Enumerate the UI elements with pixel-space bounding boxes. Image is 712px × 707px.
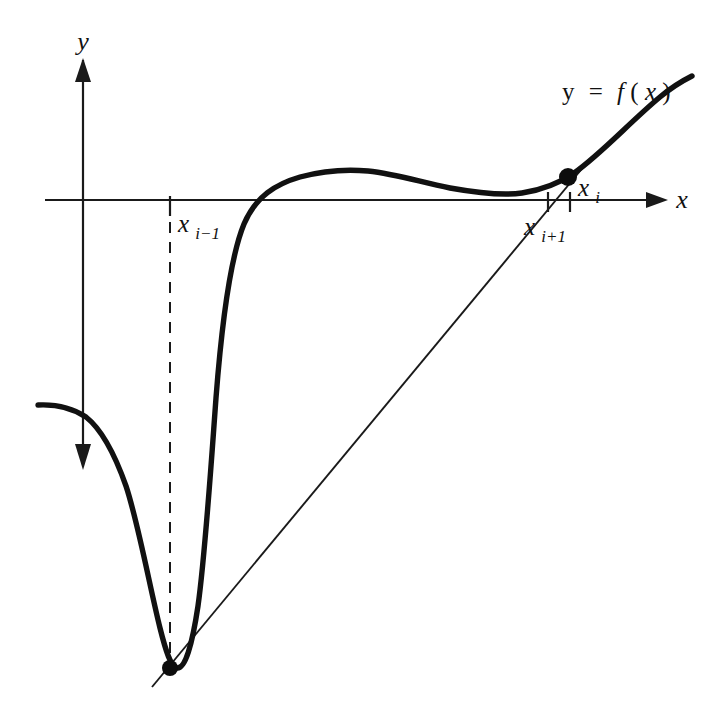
curve-label-equals: = [589, 78, 603, 105]
y-axis-up-arrowhead-icon [75, 58, 91, 82]
x-axis-label: x [675, 185, 688, 214]
label-x-i-minus-1-subscript: i−1 [195, 224, 220, 243]
y-axis-group: y [74, 27, 91, 470]
curve-label-x: x [644, 78, 656, 105]
curve-label-y: y [562, 78, 575, 105]
curve-label-f: f [617, 78, 627, 105]
figure-root: x y y = f ( x ) [0, 0, 712, 707]
label-x-i-plus-1-subscript: i+1 [541, 227, 566, 246]
curve-equation-label: y = f ( x ) [562, 78, 671, 106]
marker-dot-x-i [559, 168, 577, 186]
marker-dot-x-i-minus-1 [162, 660, 178, 676]
label-x-i-minus-1-base: x [177, 210, 189, 237]
curve-label-open-paren: ( [630, 78, 638, 106]
label-x-i-minus-1: x i−1 [177, 210, 220, 243]
label-x-i-plus-1: x i+1 [523, 213, 566, 246]
curve-label-close-paren: ) [662, 78, 670, 106]
label-x-i-plus-1-base: x [523, 213, 535, 240]
function-curve-path [38, 76, 692, 668]
label-x-i-subscript: i [595, 188, 600, 207]
y-axis-label: y [74, 27, 89, 56]
label-x-i: x i [577, 174, 600, 207]
y-axis-down-arrowhead-icon [75, 444, 91, 470]
diagram-canvas: x y y = f ( x ) [0, 0, 712, 707]
x-axis-arrowhead-icon [646, 192, 668, 208]
label-x-i-base: x [577, 174, 589, 201]
